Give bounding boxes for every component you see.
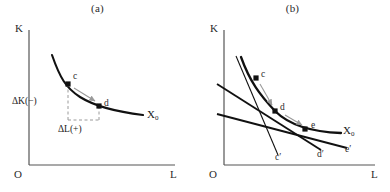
- point-marker-d: [272, 108, 277, 113]
- point-label-e: e: [311, 120, 315, 130]
- y-axis-label: K: [15, 22, 23, 34]
- point-label-c: c: [73, 71, 77, 81]
- tangent-label-d-prime: d′: [317, 149, 324, 159]
- isoquant-label-text: X: [147, 108, 155, 120]
- tangent-label-c-prime: c′: [275, 152, 281, 162]
- y-axis-label: K: [210, 22, 218, 34]
- isoquant-label: X0: [147, 108, 158, 120]
- origin-label: O: [14, 168, 22, 180]
- delta-k-label: ΔK(−): [12, 96, 37, 106]
- isoquant-label-sub: 0: [351, 130, 355, 138]
- delta-l-label: ΔL(+): [58, 124, 82, 134]
- isoquant-label-text: X: [343, 124, 351, 136]
- point-marker-e: [302, 126, 307, 131]
- panel-b: (b) K: [195, 0, 390, 192]
- point-label-d: d: [104, 98, 109, 108]
- isoquant-label-sub: 0: [155, 114, 159, 122]
- tangent-line-d-prime: [217, 84, 321, 150]
- point-label-d: d: [280, 102, 285, 112]
- point-marker-c: [65, 81, 70, 86]
- point-marker-c: [253, 75, 258, 80]
- point-label-c: c: [261, 69, 265, 79]
- figure-root: (a) K O L: [0, 0, 390, 192]
- point-marker-d: [96, 103, 101, 108]
- isoquant-curve: [241, 57, 341, 133]
- x-axis-label: L: [371, 168, 378, 180]
- origin-label: O: [209, 168, 217, 180]
- tangent-label-e-prime: e′: [345, 144, 351, 154]
- panel-a: (a) K O L: [0, 0, 195, 192]
- tangent-line-c-prime: [236, 56, 278, 155]
- isoquant-label: X0: [343, 124, 354, 136]
- x-axis-label: L: [170, 168, 177, 180]
- panel-b-graphic: [195, 0, 390, 192]
